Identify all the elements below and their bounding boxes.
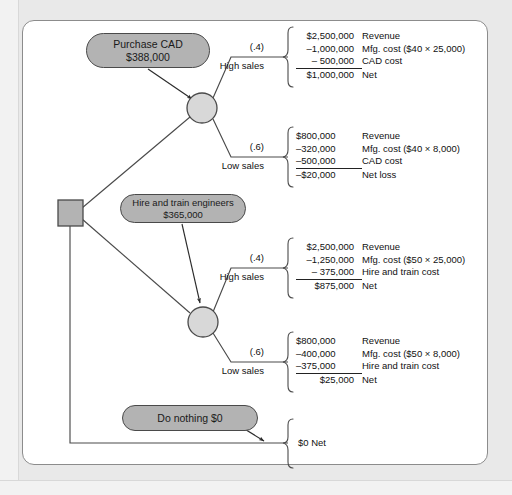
alternative-hire-and-train-line1: Hire and train engineers [132,197,233,209]
branch-label-hire-high-probability: (.4) [198,252,264,263]
outcome-description: Net [362,69,377,82]
outcome-description: Net loss [362,169,396,182]
outcome-cad-low-sales: $800,000Revenue–320,000Mfg. cost ($40 × … [296,130,460,181]
outcome-row: –320,000Mfg. cost ($40 × 8,000) [296,143,460,156]
outcome-row: $2,500,000Revenue [296,241,465,254]
outcome-description: Revenue [362,30,400,43]
outcome-description: Hire and train cost [362,360,439,374]
outcome-description: Mfg. cost ($50 × 25,000) [362,254,465,267]
outcome-row: –1,000,000Mfg. cost ($40 × 25,000) [296,43,465,56]
branch-label-hire-high-name: High sales [198,271,264,282]
outcome-row: – 500,000CAD cost [296,55,465,69]
outcome-amount: –500,000 [296,155,362,169]
alternative-do-nothing[interactable]: Do nothing $0 [122,405,258,431]
outcome-row: $2,500,000Revenue [296,30,465,43]
outcome-description: Revenue [362,130,400,143]
outcome-description: Revenue [362,335,400,348]
outcome-row: –1,250,000Mfg. cost ($50 × 25,000) [296,254,465,267]
outcome-row: $1,000,000Net [296,69,465,82]
outcome-amount: –320,000 [296,143,362,156]
outcome-row: – 375,000Hire and train cost [296,266,465,280]
outcome-amount: – 500,000 [296,55,362,69]
outcome-do-nothing-net: $0 Net [298,437,326,448]
outcome-amount: –$20,000 [296,169,362,182]
outcome-row: $875,000Net [296,280,465,293]
outcome-description: CAD cost [362,155,402,169]
outcome-amount: $800,000 [296,130,362,143]
outcome-row: $800,000Revenue [296,335,460,348]
outcome-amount: $2,500,000 [296,30,362,43]
outcome-description: Hire and train cost [362,266,439,280]
branch-label-cad-high-name: High sales [198,60,264,71]
outcome-row: –$20,000Net loss [296,169,460,182]
outcome-hire-high-sales: $2,500,000Revenue–1,250,000Mfg. cost ($5… [296,241,465,292]
outcome-row: $25,000Net [296,374,460,387]
alternative-purchase-cad-line2: $388,000 [126,51,170,64]
outcome-amount: –1,250,000 [296,254,362,267]
outcome-hire-low-sales: $800,000Revenue–400,000Mfg. cost ($50 × … [296,335,460,386]
outcome-amount: –375,000 [296,360,362,374]
outcome-description: Net [362,374,377,387]
outcome-cad-high-sales: $2,500,000Revenue–1,000,000Mfg. cost ($4… [296,30,465,81]
outcome-description: Mfg. cost ($40 × 25,000) [362,43,465,56]
outcome-description: Net [362,280,377,293]
decision-node-square [58,200,83,226]
alternative-purchase-cad-line1: Purchase CAD [113,38,182,51]
outcome-amount: $1,000,000 [296,69,362,82]
outcome-description: Revenue [362,241,400,254]
outcome-amount: $800,000 [296,335,362,348]
outcome-row: –400,000Mfg. cost ($50 × 8,000) [296,348,460,361]
edge-decision-to-hire [82,219,190,313]
chance-node-cad [187,93,217,123]
alternative-purchase-cad[interactable]: Purchase CAD $388,000 [86,33,210,68]
outcome-description: Mfg. cost ($40 × 8,000) [362,143,460,156]
outcome-amount: $25,000 [296,374,362,387]
outcome-amount: – 375,000 [296,266,362,280]
outcome-amount: $2,500,000 [296,241,362,254]
alternative-do-nothing-line1: Do nothing $0 [157,412,222,425]
outcome-row: $800,000Revenue [296,130,460,143]
branch-label-cad-low-probability: (.6) [198,141,264,152]
branch-label-cad-low-name: Low sales [198,160,264,171]
chance-node-hire [188,307,218,337]
outcome-description: Mfg. cost ($50 × 8,000) [362,348,460,361]
outcome-row: –375,000Hire and train cost [296,360,460,374]
alternative-hire-and-train-line2: $365,000 [163,209,203,221]
arrow-purchase-cad-to-node [148,69,192,99]
branch-label-hire-low-probability: (.6) [198,346,264,357]
outcome-row: –500,000CAD cost [296,155,460,169]
arrow-hire-train-to-node [182,224,200,303]
outcome-amount: $875,000 [296,280,362,293]
outcome-amount: –400,000 [296,348,362,361]
outcome-description: CAD cost [362,55,402,69]
branch-label-hire-low-name: Low sales [198,365,264,376]
alternative-hire-and-train[interactable]: Hire and train engineers $365,000 [120,194,246,223]
branch-label-cad-high-probability: (.4) [198,41,264,52]
decision-tree-figure: Purchase CAD $388,000 Hire and train eng… [0,0,512,495]
outcome-amount: –1,000,000 [296,43,362,56]
